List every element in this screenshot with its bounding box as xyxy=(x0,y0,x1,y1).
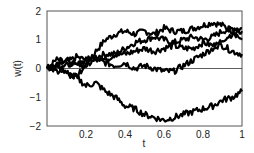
sample-path-4 xyxy=(47,30,242,74)
x-tick-label: 0.6 xyxy=(157,129,171,140)
sample-path-5 xyxy=(47,65,242,122)
y-tick-label: −2 xyxy=(30,121,42,132)
y-tick-label: 0 xyxy=(35,63,41,74)
y-tick-label: −1 xyxy=(30,92,42,103)
x-axis-ticks: 0.20.40.60.81 xyxy=(79,129,245,140)
brownian-motion-chart: 210−1−2 0.20.40.60.81 t w(t) xyxy=(0,0,254,153)
y-tick-label: 1 xyxy=(35,34,41,45)
x-tick-label: 0.4 xyxy=(118,129,132,140)
y-axis-label: w(t) xyxy=(12,60,23,78)
sample-paths xyxy=(47,22,242,121)
x-tick-label: 0.8 xyxy=(196,129,210,140)
x-tick-label: 0.2 xyxy=(79,129,93,140)
y-tick-label: 2 xyxy=(35,6,41,17)
x-axis-label: t xyxy=(143,138,146,149)
y-axis-ticks: 210−1−2 xyxy=(30,6,42,132)
x-tick-label: 1 xyxy=(239,129,245,140)
